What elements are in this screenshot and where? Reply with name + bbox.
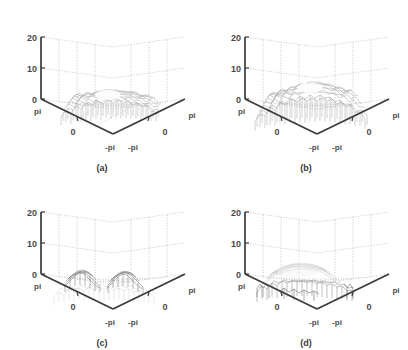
mesh-surface-a (61, 90, 161, 125)
panel-caption-a: (a) (0, 163, 204, 173)
panel-caption-b: (b) (204, 163, 408, 173)
x-tick-neg-pi: -pi (128, 143, 138, 152)
z-tick-20: 20 (27, 33, 37, 43)
x-tick-pi: pi (392, 111, 399, 120)
axes-3d-a: 20 10 0 pi 0 -pi -pi 0 pi (0, 0, 204, 175)
y-tick-neg-pi: -pi (105, 143, 115, 152)
y-tick-pi: pi (238, 107, 245, 116)
z-tick-10: 10 (231, 239, 241, 249)
floor-tick-marks (77, 117, 149, 121)
x-tick-0: 0 (366, 302, 371, 312)
mesh-surface-d (257, 263, 354, 302)
x-tick-neg-pi: -pi (332, 318, 342, 327)
x-tick-0: 0 (162, 302, 167, 312)
x-tick-neg-pi: -pi (332, 143, 342, 152)
z-tick-0: 0 (32, 270, 37, 280)
y-tick-0: 0 (70, 127, 75, 137)
x-tick-pi: pi (392, 286, 399, 295)
y-tick-0: 0 (70, 302, 75, 312)
y-tick-neg-pi: -pi (309, 318, 319, 327)
plot-panel-d: 20 10 0 pi 0 -pi -pi 0 pi (d) (204, 175, 408, 350)
z-tick-20: 20 (231, 33, 241, 43)
y-tick-pi: pi (34, 282, 41, 291)
y-tick-0: 0 (274, 127, 279, 137)
z-tick-20: 20 (27, 208, 37, 218)
plot-panel-c: 20 10 0 pi 0 -pi -pi 0 pi (c) (0, 175, 204, 350)
figure-container: 20 10 0 pi 0 -pi -pi 0 pi (a) (0, 0, 408, 350)
panel-caption-c: (c) (0, 338, 204, 348)
x-tick-pi: pi (188, 111, 195, 120)
z-tick-0: 0 (236, 95, 241, 105)
axes-3d-c: 20 10 0 pi 0 -pi -pi 0 pi (0, 175, 204, 350)
x-tick-0: 0 (162, 127, 167, 137)
axes-3d-d: 20 10 0 pi 0 -pi -pi 0 pi (204, 175, 408, 350)
z-tick-10: 10 (27, 64, 37, 74)
y-tick-pi: pi (34, 107, 41, 116)
y-tick-0: 0 (274, 302, 279, 312)
y-tick-neg-pi: -pi (309, 143, 319, 152)
z-tick-20: 20 (231, 208, 241, 218)
grid-right-wall (113, 37, 185, 109)
y-tick-neg-pi: -pi (105, 318, 115, 327)
z-tick-0: 0 (236, 270, 241, 280)
panel-caption-d: (d) (204, 338, 408, 348)
plot-panel-a: 20 10 0 pi 0 -pi -pi 0 pi (a) (0, 0, 204, 175)
mesh-surface-b (255, 82, 367, 131)
z-tick-10: 10 (231, 64, 241, 74)
x-tick-pi: pi (188, 286, 195, 295)
floor-tick-marks (77, 292, 149, 296)
axes-3d-b: 20 10 0 pi 0 -pi -pi 0 pi (204, 0, 408, 175)
x-tick-neg-pi: -pi (128, 318, 138, 327)
z-tick-0: 0 (32, 95, 37, 105)
y-tick-pi: pi (238, 282, 245, 291)
x-tick-0: 0 (366, 127, 371, 137)
plot-panel-b: 20 10 0 pi 0 -pi -pi 0 pi (b) (204, 0, 408, 175)
z-tick-10: 10 (27, 239, 37, 249)
